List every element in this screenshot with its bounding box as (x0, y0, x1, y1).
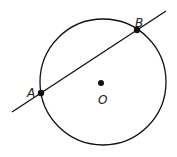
point-a (38, 90, 44, 96)
point-o (98, 80, 104, 86)
label-b: B (135, 16, 143, 30)
label-o: O (98, 93, 107, 107)
geometry-diagram: A B O (0, 0, 177, 157)
label-a: A (26, 86, 35, 100)
